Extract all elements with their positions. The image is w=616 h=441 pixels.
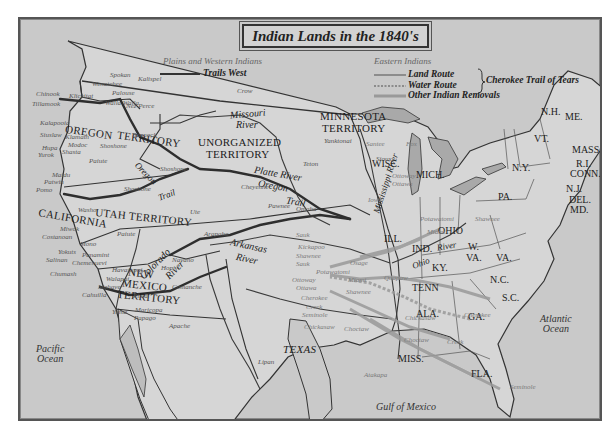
tribe-label: Washo	[78, 207, 96, 214]
tribe-label: Shoshone	[160, 166, 187, 173]
tribe-label: Patwin	[44, 179, 64, 186]
label-conn: CONN.	[570, 169, 601, 179]
map-title: Indian Lands in the 1840's	[242, 24, 429, 48]
tribe-label: Palouse	[112, 90, 135, 97]
tribe-label: Kickapoo	[298, 244, 325, 251]
tribe-label: Osage	[350, 260, 368, 267]
tribe-label: Cheyenne	[241, 184, 269, 191]
label-pa: PA.	[498, 192, 512, 202]
tribe-label: Shawnee	[475, 216, 500, 223]
tribe-label: Navaho	[172, 257, 194, 264]
label-pacific-ocean: PacificOcean	[36, 344, 64, 364]
label-atlantic-ocean: AtlanticOcean	[540, 314, 572, 334]
legend-land-route: Land Route	[408, 70, 454, 80]
label-vt: VT.	[534, 134, 549, 144]
label-miss: MISS.	[398, 354, 424, 364]
tribe-label: Apache	[169, 323, 190, 330]
tribe-label: Omaha	[296, 206, 317, 213]
tribe-label: Sauk	[296, 261, 310, 268]
tribe-label: Comanche	[172, 284, 202, 291]
legend-plains-heading: Plains and Western Indians	[163, 57, 262, 66]
tribe-label: Ottoway	[292, 277, 316, 284]
legend-trails-west: Trails West	[203, 69, 246, 79]
tribe-label: Kalispel	[138, 76, 161, 83]
label-minnesota: MINNESOTA	[320, 111, 387, 122]
tribe-label: Miami	[427, 229, 445, 236]
tribe-label: Yurok	[38, 152, 54, 159]
tribe-label: Fox	[406, 141, 417, 148]
tribe-label: Chumash	[50, 271, 76, 278]
tribe-label: Klickitat	[69, 93, 93, 100]
tribe-label: Choctaw	[344, 326, 369, 333]
tribe-label: Pima	[133, 293, 148, 300]
label-missouri-river-2: River	[236, 120, 258, 130]
tribe-label: Seminole	[302, 312, 328, 319]
label-nc: N.C.	[490, 275, 509, 285]
tribe-label: Chickasaw	[304, 324, 335, 331]
tribe-label: Paiute	[117, 231, 135, 238]
tribe-label: Hopi	[161, 265, 175, 272]
tribe-label: Mono	[80, 241, 96, 248]
tribe-label: Cherokee	[301, 295, 328, 302]
label-sc: S.C.	[502, 293, 519, 303]
label-wva-1: W.	[468, 242, 479, 252]
label-fla: FLA.	[471, 369, 492, 379]
label-minnesota-territory: TERRITORY	[322, 123, 386, 134]
ocean-name-2: Ocean	[37, 353, 63, 364]
tribe-label: Chemehuevi	[72, 260, 107, 267]
label-mich: MICH.	[416, 170, 445, 180]
tribe-label: Shasta	[62, 149, 81, 156]
tribe-label: Mohave	[98, 284, 121, 291]
legend-cherokee-trail: Cherokee Trail of Tears	[486, 76, 579, 86]
tribe-label: Seminole	[510, 384, 536, 391]
tribe-label: Shoshone	[124, 186, 151, 193]
tribe-label: Paiute	[89, 158, 107, 165]
tribe-label: Kalapooia	[40, 120, 70, 127]
tribe-label: Sioux	[376, 156, 392, 163]
tribe-label: Walapai	[106, 276, 129, 283]
tribe-label: Choctaw	[404, 337, 429, 344]
tribe-label: Crow	[237, 88, 252, 95]
tribe-label: Papago	[134, 315, 156, 322]
legend-other-removals: Other Indian Removals	[408, 91, 500, 101]
label-ky: KY.	[432, 263, 448, 273]
tribe-label: Chinook	[36, 91, 60, 98]
label-texas: TEXAS	[283, 344, 316, 355]
tribe-label: Potawatomi	[316, 269, 350, 276]
tribe-label: Pawnee	[268, 203, 290, 210]
tribe-label: Ottawa	[296, 285, 317, 292]
ocean-name-2: Ocean	[543, 323, 569, 334]
label-unorganized-territory: TERRITORY	[206, 149, 270, 160]
tribe-label: Ute	[190, 209, 200, 216]
label-nh: N.H.	[541, 107, 560, 117]
tribe-label: Klamath	[65, 134, 89, 141]
tribe-label: Yuma	[112, 309, 127, 316]
label-nj: N.J.	[566, 184, 582, 194]
tribe-label: Cherokee	[464, 312, 491, 319]
label-md: MD.	[570, 205, 589, 215]
tribe-label: Santee	[366, 141, 385, 148]
label-va: VA.	[496, 253, 512, 263]
label-gulf-of-mexico: Gulf of Mexico	[376, 402, 436, 412]
tribe-label: Pomo	[36, 187, 52, 194]
tribe-label: Creek	[306, 304, 322, 311]
tribe-label: Iowa	[368, 197, 382, 204]
tribe-label: Chickasaw	[405, 315, 436, 322]
tribe-label: Miami	[348, 277, 366, 284]
tribe-label: Wenatchee	[92, 81, 122, 88]
label-wva-2: VA.	[466, 253, 482, 263]
tribe-label: Yokuts	[58, 249, 76, 256]
label-ill: ILL.	[384, 234, 402, 244]
tribe-label: Ottawa	[392, 181, 413, 188]
tribe-label: Ottoway	[392, 173, 416, 180]
map-frame: Indian Lands in the 1840's Plains and We…	[18, 17, 602, 421]
tribe-label: Shoshone	[100, 143, 127, 150]
tribe-label: Shawnee	[296, 253, 321, 260]
tribe-label: Costanoan	[42, 234, 72, 241]
tribe-label: Nez Perce	[126, 103, 154, 110]
tribe-label: Potawatomi	[420, 216, 454, 223]
tribe-label: Lipan	[258, 359, 274, 366]
tribe-label: Panamint	[82, 252, 109, 259]
tribe-label: Yanktonai	[324, 138, 352, 145]
tribe-label: Atakapa	[364, 372, 387, 379]
